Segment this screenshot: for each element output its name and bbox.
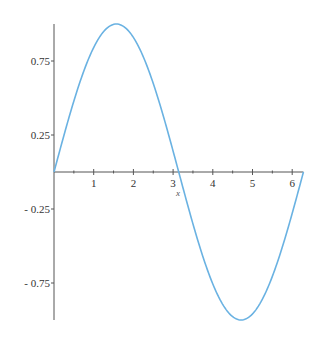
x-tick-label: 1 <box>91 177 97 189</box>
x-axis-label: x <box>175 188 180 198</box>
x-tick-label: 4 <box>210 177 216 189</box>
x-tick-label: 5 <box>250 177 256 189</box>
y-tick-label: - 0.75 <box>24 277 50 289</box>
y-tick-label: 0.25 <box>31 129 51 141</box>
x-tick-label: 6 <box>289 177 295 189</box>
x-tick-label: 2 <box>131 177 137 189</box>
y-tick-label: - 0.25 <box>24 203 50 215</box>
sine-plot: 1234560.750.25- 0.25- 0.75 x <box>0 0 322 347</box>
y-tick-label: 0.75 <box>31 55 51 67</box>
